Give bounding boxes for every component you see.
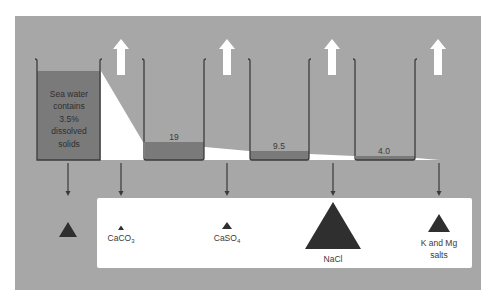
beaker-2-liquid xyxy=(145,142,204,160)
seawater-label-line: contains xyxy=(36,100,102,112)
caso4-subscript: 4 xyxy=(237,238,240,244)
beaker-3-liquid xyxy=(250,151,309,160)
evaporation-arrow-icon xyxy=(324,39,340,75)
beaker-4-level-label: 4.0 xyxy=(364,147,404,156)
evaporation-arrow-icon xyxy=(219,39,235,75)
caco3-label: CaCO3 xyxy=(86,234,156,244)
caso4-label: CaSO4 xyxy=(192,234,262,244)
k-mg-salts-label-line: salts xyxy=(404,249,474,261)
beaker-4 xyxy=(353,59,417,160)
evaporation-arrows xyxy=(113,39,446,75)
caco3-formula: CaCO xyxy=(108,233,132,243)
seawater-label: Sea water contains 3.5% dissolved solids xyxy=(36,88,102,150)
down-arrow-icon xyxy=(331,191,336,196)
down-arrow-icon xyxy=(437,191,442,196)
caso4-formula: CaSO xyxy=(214,233,237,243)
evaporation-arrow-icon xyxy=(430,39,446,75)
beaker-2 xyxy=(142,59,206,160)
caco3-subscript: 3 xyxy=(131,238,134,244)
seawater-label-line: solids xyxy=(36,138,102,150)
down-arrow-icon xyxy=(119,191,124,196)
nacl-label: NaCl xyxy=(298,255,368,264)
down-arrow-icon xyxy=(66,191,71,196)
k-mg-salts-label-line: K and Mg xyxy=(404,237,474,249)
k-mg-salts-label: K and Mg salts xyxy=(404,237,474,261)
beaker-3-level-label: 9.5 xyxy=(259,142,299,151)
down-arrow-icon xyxy=(225,191,230,196)
seawater-label-line: dissolved xyxy=(36,125,102,137)
seawater-label-line: Sea water xyxy=(36,88,102,100)
precipitate-triangle-icon xyxy=(59,222,77,237)
precipitation-arrows xyxy=(66,163,442,196)
evaporation-arrow-icon xyxy=(113,39,129,75)
beaker-2-level-label: 19 xyxy=(154,133,194,142)
seawater-label-line: 3.5% xyxy=(36,113,102,125)
